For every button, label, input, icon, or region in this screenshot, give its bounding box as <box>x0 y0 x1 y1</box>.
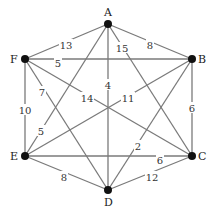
graph-diagram: 138541514117510626812 ABCDEF <box>0 0 215 213</box>
edge-weight-F-C: 14 <box>81 93 94 104</box>
edge-weight-B-D: 2 <box>135 141 141 152</box>
edge-weight-D-C: 12 <box>146 172 159 183</box>
edge-labels-layer: 138541514117510626812 <box>18 39 196 183</box>
edge-weight-E-D: 8 <box>61 172 67 183</box>
node-E <box>21 152 29 160</box>
node-B <box>188 55 196 63</box>
edge-weight-A-E: 5 <box>38 126 44 137</box>
edge-weight-A-F: 13 <box>60 40 73 51</box>
node-label-C: C <box>198 150 206 163</box>
edge-weight-F-B: 5 <box>55 58 61 69</box>
edge-B-D <box>108 59 192 190</box>
node-label-A: A <box>103 6 113 19</box>
node-label-D: D <box>104 196 113 209</box>
node-F <box>21 55 29 63</box>
edge-weight-F-E: 10 <box>19 105 32 116</box>
node-A <box>104 20 112 28</box>
edges-layer <box>25 24 192 190</box>
node-label-E: E <box>10 150 18 163</box>
edge-weight-A-B: 8 <box>147 40 153 51</box>
edge-weight-A-D: 4 <box>105 80 111 91</box>
edge-weight-E-C: 6 <box>157 155 163 166</box>
node-C <box>188 152 196 160</box>
node-label-B: B <box>198 53 206 66</box>
edge-weight-F-D: 7 <box>39 87 45 98</box>
edge-weight-E-B: 11 <box>122 93 135 104</box>
node-label-F: F <box>10 53 18 66</box>
edge-weight-B-C: 6 <box>189 103 195 114</box>
edge-weight-A-C: 15 <box>116 43 129 54</box>
edge-F-D <box>25 59 108 190</box>
node-D <box>104 186 112 194</box>
